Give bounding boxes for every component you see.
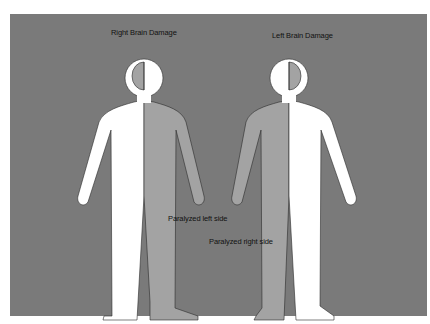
paralyzed-body-half [232,100,289,320]
healthy-body-half [289,100,356,320]
paralysis-label-left-side: Paralyzed left side [168,214,227,223]
figure-left-brain-damage [232,59,357,320]
figure-title-left-brain-damage: Left Brain Damage [272,31,333,40]
figure-title-right-brain-damage: Right Brain Damage [111,28,177,37]
healthy-body-half [78,100,144,320]
paralysis-label-right-side: Paralyzed right side [209,237,273,246]
paralyzed-body-half [144,100,204,320]
body-figures [0,0,430,324]
figure-right-brain-damage [78,59,205,320]
